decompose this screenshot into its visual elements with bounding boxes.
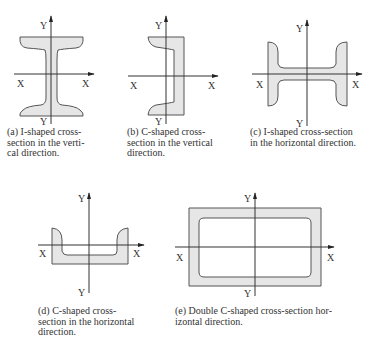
axis-y-label-top: Y [244, 193, 251, 204]
axis-y-label-bottom: Y [78, 287, 85, 298]
axis-x-label-right: X [82, 78, 90, 89]
caption-line: (d) C-shaped cross- [38, 306, 146, 317]
caption-b: (b) C-shaped cross- section in the verti… [127, 127, 229, 159]
axis-y-label-top: Y [40, 20, 47, 31]
axis-x-label-right: X [208, 80, 216, 91]
caption-line: direction. [127, 148, 229, 159]
caption-line: in the horizontal direction. [250, 138, 368, 149]
panel-e-diagram: Y Y X X [175, 193, 335, 299]
axis-x-label-left: X [176, 252, 184, 263]
caption-c: (c) I-shaped cross-section in the horizo… [250, 127, 368, 148]
figure-canvas: Y Y X X Y Y X X Y Y X X Y Y X X Y [0, 0, 370, 347]
caption-e: (e) Double C-shaped cross-section hor- i… [175, 306, 345, 327]
panel-a-diagram: Y Y X X [14, 16, 94, 127]
axis-x-label-left: X [39, 248, 47, 259]
c-channel-horizontal-shape [52, 228, 128, 264]
caption-line: (e) Double C-shaped cross-section hor- [175, 306, 345, 317]
panel-d-diagram: Y Y X X [38, 193, 144, 298]
axis-x-label-right: X [133, 248, 141, 259]
axis-x-label-left: X [130, 80, 138, 91]
axis-y-label-top: Y [155, 20, 162, 31]
caption-line: (b) C-shaped cross- [127, 127, 229, 138]
axis-y-label-top: Y [296, 23, 303, 34]
axis-x-label-right: X [352, 79, 360, 90]
axis-y-label-top: Y [78, 193, 85, 204]
caption-line: (c) I-shaped cross-section [250, 127, 368, 138]
caption-line: izontal direction. [175, 317, 345, 328]
axis-x-label-left: X [17, 78, 25, 89]
axis-x-label-left: X [256, 79, 264, 90]
caption-a: (a) I-shaped cross- section in the verti… [7, 127, 97, 159]
panel-c-diagram: Y Y X X [252, 20, 362, 129]
caption-line: cal direction. [7, 148, 97, 159]
caption-line: direction. [38, 327, 146, 338]
axis-y-label-bottom: Y [244, 288, 251, 299]
axis-x-label-right: X [327, 252, 335, 263]
panel-b-diagram: Y Y X X [128, 16, 218, 127]
caption-line: (a) I-shaped cross- [7, 127, 97, 138]
caption-d: (d) C-shaped cross- section in the horiz… [38, 306, 146, 338]
